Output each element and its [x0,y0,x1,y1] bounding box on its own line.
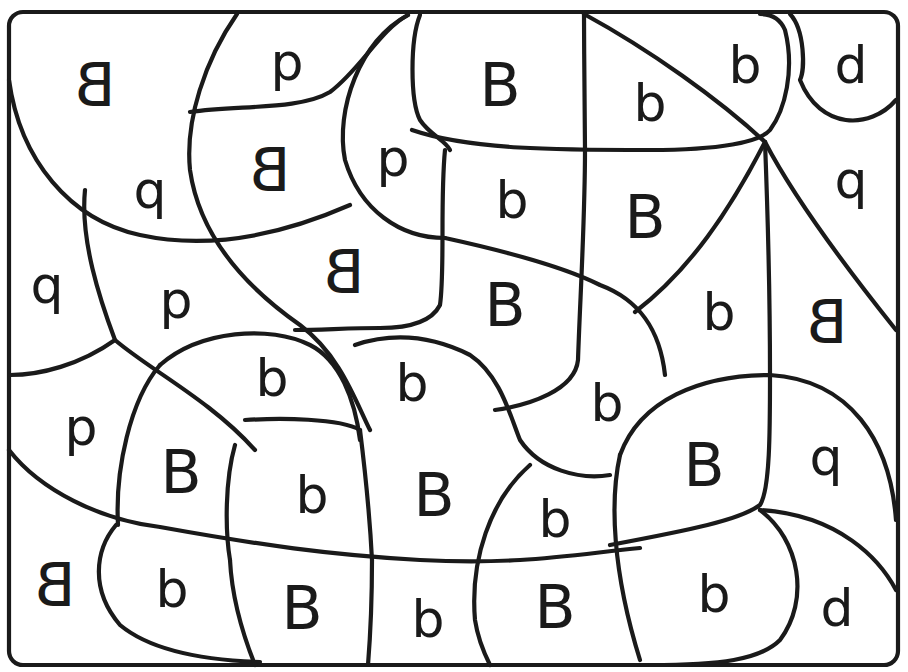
region-outline-drawing [0,0,908,672]
region-r2[interactable]: p [270,36,303,88]
region-letter: B [534,577,575,637]
region-letter: b [295,469,328,521]
divider-line [620,375,896,520]
region-r14[interactable]: p [159,274,192,326]
divider-line [413,15,451,150]
divider-line [368,560,372,665]
region-letter: p [159,274,192,326]
region-r8[interactable]: B [249,140,290,200]
region-letter: q [834,154,867,206]
worksheet-border [9,12,898,665]
region-r10[interactable]: b [495,174,528,226]
region-r17[interactable]: b [702,286,735,338]
divider-line [118,365,160,525]
region-letter: b [495,174,528,226]
region-r13[interactable]: q [30,259,63,311]
divider-line [343,15,445,238]
divider-line [230,560,255,665]
region-letter: p [270,36,303,88]
region-letter: B [683,435,724,495]
region-r25[interactable]: B [413,465,454,525]
divider-line [245,419,360,430]
region-letter: B [160,442,201,502]
region-r4[interactable]: b [633,77,666,129]
divider-line [615,455,640,660]
region-letter: B [484,275,525,335]
region-r15[interactable]: B [323,242,364,302]
region-letter: b [590,377,623,429]
region-letter: B [323,242,364,302]
region-r33[interactable]: B [534,577,575,637]
region-letter: B [806,292,847,352]
region-r9[interactable]: p [376,132,409,184]
region-r5[interactable]: b [728,39,761,91]
color-by-letter-worksheet: B p B b b d q B p b B q q p B B b B p b … [0,0,908,672]
region-letter: b [155,563,188,615]
region-r21[interactable]: b [395,357,428,409]
divider-line [445,238,665,375]
region-r7[interactable]: q [133,164,166,216]
region-letter: b [728,39,761,91]
region-r24[interactable]: b [295,469,328,521]
region-r1[interactable]: B [74,55,115,115]
region-letter: p [64,401,97,453]
region-letter: b [697,568,730,620]
region-r11[interactable]: B [624,187,665,247]
region-r29[interactable]: B [34,555,75,615]
region-r20[interactable]: b [255,352,288,404]
region-r28[interactable]: b [538,493,571,545]
region-r19[interactable]: p [64,401,97,453]
region-r34[interactable]: b [697,568,730,620]
region-letter: q [809,431,842,483]
region-letter: b [411,593,444,645]
region-letter: b [255,352,288,404]
region-r12[interactable]: q [834,154,867,206]
region-r18[interactable]: B [806,292,847,352]
divider-line [765,142,770,375]
region-letter: d [834,39,867,91]
region-r26[interactable]: B [683,435,724,495]
divider-line [474,465,530,665]
region-letter: q [30,259,63,311]
region-r22[interactable]: b [590,377,623,429]
region-letter: B [624,187,665,247]
region-letter: b [702,286,735,338]
region-r31[interactable]: B [281,578,322,638]
region-letter: b [633,77,666,129]
region-letter: B [413,465,454,525]
region-r35[interactable]: d [820,582,853,634]
region-r27[interactable]: q [809,431,842,483]
region-letter: B [74,55,115,115]
divider-line [360,430,372,560]
region-r23[interactable]: B [160,442,201,502]
region-r6[interactable]: d [834,39,867,91]
region-letter: q [133,164,166,216]
region-letter: B [34,555,75,615]
region-letter: b [395,357,428,409]
divider-line [355,338,610,477]
region-r30[interactable]: b [155,563,188,615]
region-r16[interactable]: B [484,275,525,335]
divider-line [295,150,445,330]
region-letter: B [479,55,520,115]
region-r3[interactable]: B [479,55,520,115]
divider-line [115,340,255,450]
region-letter: B [249,140,290,200]
divider-line [227,445,235,560]
region-letter: d [820,582,853,634]
divider-line [584,14,585,150]
region-letter: p [376,132,409,184]
region-letter: B [281,578,322,638]
region-r32[interactable]: b [411,593,444,645]
region-letter: b [538,493,571,545]
